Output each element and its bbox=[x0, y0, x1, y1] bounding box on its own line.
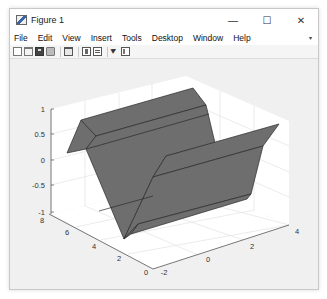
z-axis-ticks: 1 0.5 0 -0.5 -1 bbox=[32, 105, 45, 217]
svg-text:-0.5: -0.5 bbox=[32, 181, 45, 190]
svg-text:4: 4 bbox=[92, 242, 96, 251]
svg-text:1: 1 bbox=[41, 105, 45, 114]
figure-canvas: 1 0.5 0 -0.5 -1 8 6 4 2 0 bbox=[10, 60, 318, 289]
svg-text:6: 6 bbox=[65, 228, 69, 237]
svg-text:8: 8 bbox=[40, 216, 44, 225]
svg-text:-2: -2 bbox=[161, 268, 168, 277]
svg-text:2: 2 bbox=[250, 242, 254, 251]
svg-text:4: 4 bbox=[295, 227, 299, 236]
surface-plot-axes[interactable]: 1 0.5 0 -0.5 -1 8 6 4 2 0 bbox=[1, 1, 327, 299]
svg-text:2: 2 bbox=[117, 254, 121, 263]
svg-text:0: 0 bbox=[41, 156, 45, 165]
svg-text:0.5: 0.5 bbox=[35, 130, 45, 139]
svg-text:0: 0 bbox=[144, 268, 148, 277]
svg-text:0: 0 bbox=[206, 255, 210, 264]
figure-window: Figure 1 — ☐ ✕ File Edit View Insert Too… bbox=[9, 8, 319, 290]
